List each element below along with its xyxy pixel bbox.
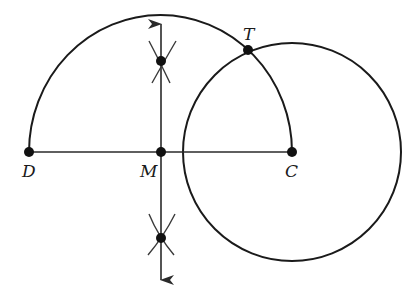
point-m [156,147,166,157]
label-t: T [243,24,256,44]
point-c [287,147,297,157]
point-upper-intersection [156,56,166,66]
geometry-diagram: D M C T [0,0,418,288]
point-d [24,147,34,157]
label-d: D [21,161,36,181]
label-m: M [139,161,158,181]
point-t [243,45,253,55]
label-c: C [285,161,298,181]
point-lower-intersection [156,233,166,243]
